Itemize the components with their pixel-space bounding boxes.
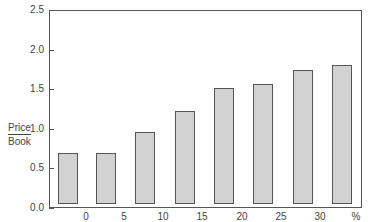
x-tick-label: 15: [192, 211, 212, 222]
bar: [58, 153, 78, 204]
x-tick-label: 0: [76, 211, 96, 222]
bar: [332, 65, 352, 204]
bar: [135, 132, 155, 204]
y-tick-label: 0.5: [14, 162, 44, 173]
y-tick: [49, 50, 54, 51]
y-axis-title-denominator: Book: [8, 135, 31, 147]
x-tick-label: 30: [310, 211, 330, 222]
x-tick-label: 10: [153, 211, 173, 222]
bar: [214, 88, 234, 204]
y-tick-label: 2.0: [14, 44, 44, 55]
y-tick-label: 1.0: [14, 123, 44, 134]
bar: [293, 70, 313, 204]
x-tick-label: 25: [271, 211, 291, 222]
bar: [175, 111, 195, 204]
x-tick-label: 20: [232, 211, 252, 222]
y-tick: [49, 168, 54, 169]
y-tick: [49, 89, 54, 90]
y-tick: [49, 10, 54, 11]
x-tick-label: %: [346, 211, 366, 222]
y-tick-label: 0.0: [14, 202, 44, 213]
bar: [96, 153, 116, 204]
y-tick-label: 1.5: [14, 83, 44, 94]
y-tick: [49, 129, 54, 130]
x-tick-label: 5: [114, 211, 134, 222]
bar: [253, 84, 273, 204]
y-tick-label: 2.5: [14, 4, 44, 15]
y-tick: [49, 208, 54, 209]
